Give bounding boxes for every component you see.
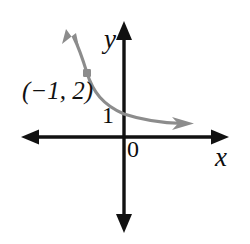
point-marker bbox=[83, 69, 91, 77]
x-axis-label: x bbox=[215, 144, 227, 171]
axes-group bbox=[21, 21, 229, 233]
x-axis-arrow-left bbox=[21, 130, 39, 145]
point-coordinate-label: (−1, 2) bbox=[22, 78, 93, 103]
graph-figure: y x 1 0 (−1, 2) bbox=[0, 0, 250, 244]
coordinate-plane-svg bbox=[0, 0, 250, 244]
y-axis-arrow-up bbox=[116, 21, 132, 40]
y-axis-arrow-down bbox=[116, 214, 132, 233]
y-tick-label-1: 1 bbox=[102, 103, 114, 127]
y-axis-label: y bbox=[104, 26, 116, 53]
origin-label: 0 bbox=[127, 137, 139, 161]
